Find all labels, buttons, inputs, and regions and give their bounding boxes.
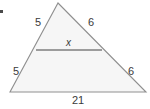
label-lower-left-side: 5 [13, 66, 19, 77]
triangle-drawing [0, 0, 150, 109]
label-midsegment-x: x [66, 38, 71, 48]
label-base: 21 [72, 95, 84, 106]
label-upper-right-side: 6 [88, 17, 94, 28]
triangle-outline [10, 3, 146, 92]
geometry-figure: 5 6 x 5 6 21 [0, 0, 150, 109]
label-upper-left-side: 5 [35, 17, 41, 28]
label-lower-right-side: 6 [128, 66, 134, 77]
